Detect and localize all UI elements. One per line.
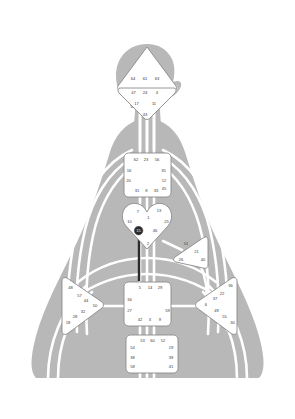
gate-number-63[interactable]: 63 — [155, 76, 160, 81]
bodygraph-canvas: 6461634724417114362235616352012318334571… — [0, 0, 295, 419]
gate-number-54[interactable]: 54 — [130, 345, 135, 350]
gate-number-44[interactable]: 44 — [84, 298, 89, 303]
gate-number-37[interactable]: 37 — [213, 296, 218, 301]
gate-number-43[interactable]: 43 — [143, 112, 148, 117]
gate-number-59[interactable]: 59 — [165, 308, 170, 313]
gate-number-26[interactable]: 26 — [179, 257, 184, 262]
gate-number-35[interactable]: 35 — [161, 168, 166, 173]
gate-number-33[interactable]: 33 — [154, 188, 159, 193]
gate-number-64[interactable]: 64 — [131, 76, 136, 81]
gate-number-25[interactable]: 25 — [164, 219, 169, 224]
gate-number-17[interactable]: 17 — [134, 101, 139, 106]
gate-number-13[interactable]: 13 — [157, 208, 162, 213]
gate-number-21[interactable]: 21 — [194, 249, 199, 254]
gate-number-18[interactable]: 18 — [66, 320, 71, 325]
gate-number-61[interactable]: 61 — [143, 76, 148, 81]
gate-number-60[interactable]: 60 — [150, 338, 155, 343]
gate-number-22[interactable]: 22 — [220, 291, 225, 296]
gate-number-40[interactable]: 40 — [201, 257, 206, 262]
gate-number-39[interactable]: 39 — [169, 355, 174, 360]
gate-number-27[interactable]: 27 — [127, 308, 132, 313]
gate-number-46[interactable]: 46 — [153, 228, 158, 233]
gate-number-16[interactable]: 16 — [127, 168, 132, 173]
gate-number-50[interactable]: 50 — [93, 303, 98, 308]
gate-number-24[interactable]: 24 — [143, 90, 148, 95]
human-design-bodygraph: 6461634724417114362235616352012318334571… — [0, 0, 295, 419]
gate-number-20[interactable]: 20 — [126, 178, 131, 183]
gate-number-38[interactable]: 38 — [130, 355, 135, 360]
gate-number-11[interactable]: 11 — [152, 101, 157, 106]
gate-number-49[interactable]: 49 — [214, 308, 219, 313]
gate-number-51[interactable]: 51 — [184, 241, 189, 246]
gate-number-34[interactable]: 34 — [127, 297, 132, 302]
gate-number-30[interactable]: 30 — [230, 320, 235, 325]
gate-number-23[interactable]: 23 — [144, 157, 149, 162]
gate-number-29[interactable]: 29 — [158, 285, 163, 290]
gate-number-32[interactable]: 32 — [81, 309, 86, 314]
gate-number-10[interactable]: 10 — [127, 219, 132, 224]
gate-number-45[interactable]: 45 — [162, 186, 167, 191]
gate-number-15[interactable]: 15 — [136, 228, 141, 233]
gate-number-41[interactable]: 41 — [169, 364, 174, 369]
gate-number-28[interactable]: 28 — [73, 314, 78, 319]
gate-number-12[interactable]: 12 — [162, 178, 167, 183]
gate-number-31[interactable]: 31 — [135, 188, 140, 193]
gate-number-62[interactable]: 62 — [134, 157, 139, 162]
gate-number-57[interactable]: 57 — [77, 293, 82, 298]
gate-number-48[interactable]: 48 — [68, 285, 73, 290]
gate-number-19[interactable]: 19 — [169, 345, 174, 350]
gate-number-14[interactable]: 14 — [148, 285, 153, 290]
gate-number-55[interactable]: 55 — [222, 314, 227, 319]
gate-number-42[interactable]: 42 — [138, 317, 143, 322]
gate-number-47[interactable]: 47 — [131, 90, 136, 95]
gate-number-58[interactable]: 58 — [130, 364, 135, 369]
gate-number-56[interactable]: 56 — [155, 157, 160, 162]
gate-number-52[interactable]: 52 — [161, 338, 166, 343]
gate-number-53[interactable]: 53 — [140, 338, 145, 343]
gate-number-36[interactable]: 36 — [228, 283, 233, 288]
